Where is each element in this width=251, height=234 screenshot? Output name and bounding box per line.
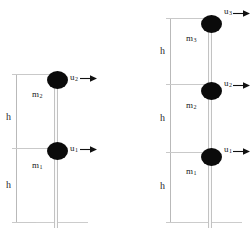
left-velocity-upper-subscript: 2 bbox=[75, 76, 79, 82]
left-mass-upper bbox=[47, 71, 68, 89]
right-mass-top bbox=[201, 15, 222, 33]
right-dimension-tick-top bbox=[166, 18, 206, 19]
left-mass-upper-label: m2 bbox=[32, 89, 43, 101]
right-velocity-top-arrow-icon bbox=[233, 9, 251, 18]
right-velocity-middle-label: u2 bbox=[224, 78, 232, 90]
right-velocity-top-label: u3 bbox=[224, 6, 232, 18]
right-mass-bottom-label: m1 bbox=[186, 166, 197, 178]
right-mass-bottom bbox=[201, 148, 222, 166]
right-velocity-bottom-label: u1 bbox=[224, 144, 232, 156]
left-mass-lower-subscript: 1 bbox=[39, 164, 43, 170]
left-mass-lower bbox=[47, 142, 68, 160]
right-dimension-tick-bottom bbox=[166, 222, 192, 223]
right-dimension-tick-second bbox=[166, 84, 206, 85]
right-height-label-top: h bbox=[160, 46, 165, 56]
left-ground-line bbox=[36, 222, 88, 223]
right-velocity-top-symbol: u bbox=[224, 6, 229, 16]
left-height-label-lower: h bbox=[6, 180, 11, 190]
right-mass-top-symbol: m bbox=[186, 33, 193, 43]
right-mass-middle-symbol: m bbox=[186, 100, 193, 110]
right-height-label-bottom: h bbox=[160, 181, 165, 191]
left-mass-lower-symbol: m bbox=[32, 160, 39, 170]
right-velocity-bottom-symbol: u bbox=[224, 144, 229, 154]
left-velocity-upper-label: u2 bbox=[70, 72, 78, 84]
left-mass-lower-label: m1 bbox=[32, 160, 43, 172]
left-velocity-upper-arrow-icon bbox=[80, 74, 98, 83]
right-mass-bottom-subscript: 1 bbox=[193, 170, 197, 176]
right-mass-top-subscript: 3 bbox=[193, 37, 197, 43]
right-ground-line bbox=[190, 222, 242, 223]
right-rod bbox=[208, 20, 212, 228]
left-velocity-lower-label: u1 bbox=[70, 143, 78, 155]
right-height-label-middle: h bbox=[160, 113, 165, 123]
diagram-canvas: h h m2 u2 m1 u1 bbox=[0, 0, 251, 234]
right-mass-bottom-symbol: m bbox=[186, 166, 193, 176]
right-velocity-middle-symbol: u bbox=[224, 78, 229, 88]
right-velocity-bottom-subscript: 1 bbox=[229, 148, 233, 154]
left-mass-upper-symbol: m bbox=[32, 89, 39, 99]
left-velocity-upper-symbol: u bbox=[70, 72, 75, 82]
left-velocity-lower-symbol: u bbox=[70, 143, 75, 153]
right-mass-middle bbox=[201, 82, 222, 100]
right-velocity-bottom-arrow-icon bbox=[233, 147, 251, 156]
right-dimension-tick-third bbox=[166, 152, 206, 153]
left-dimension-tick-top bbox=[12, 74, 50, 75]
left-mass-upper-subscript: 2 bbox=[39, 93, 43, 99]
left-dimension-tick-middle bbox=[12, 148, 50, 149]
right-dimension-line bbox=[170, 18, 171, 223]
left-dimension-tick-bottom bbox=[12, 222, 38, 223]
left-velocity-lower-subscript: 1 bbox=[75, 147, 79, 153]
right-velocity-top-subscript: 3 bbox=[229, 10, 233, 16]
right-velocity-middle-arrow-icon bbox=[233, 81, 251, 90]
right-mass-middle-label: m2 bbox=[186, 100, 197, 112]
left-height-label-upper: h bbox=[6, 112, 11, 122]
left-velocity-lower-arrow-icon bbox=[80, 145, 98, 154]
right-mass-middle-subscript: 2 bbox=[193, 104, 197, 110]
right-velocity-middle-subscript: 2 bbox=[229, 82, 233, 88]
right-mass-top-label: m3 bbox=[186, 33, 197, 45]
